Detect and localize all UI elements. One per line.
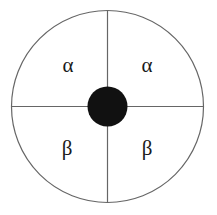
center-hub-circle — [88, 87, 128, 127]
quadrant-label-bottom-left: β — [62, 138, 73, 159]
quadrant-label-top-right: α — [141, 55, 152, 76]
circle-diagram — [0, 0, 217, 215]
quadrant-label-bottom-right: β — [142, 138, 153, 159]
diagram-canvas: α α β β — [0, 0, 217, 215]
quadrant-label-top-left: α — [62, 55, 73, 76]
